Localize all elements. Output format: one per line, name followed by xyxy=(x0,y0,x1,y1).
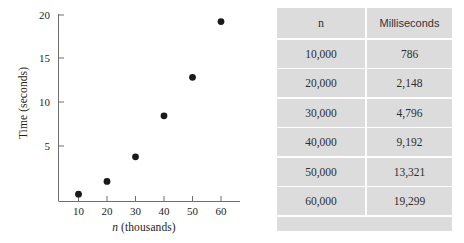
cell-n: 10,000 xyxy=(277,40,365,68)
timing-data-table: n Milliseconds 10,000 786 20,000 2,148 3… xyxy=(277,8,452,205)
cell-n: 50,000 xyxy=(277,158,365,186)
data-point xyxy=(104,178,111,185)
data-point xyxy=(161,112,168,119)
cell-n: 60,000 xyxy=(277,187,365,215)
column-header-n: n xyxy=(277,8,365,38)
scatter-plot-figure: 20 15 10 5 10 20 30 40 50 60 Time (secon… xyxy=(0,0,266,243)
cell-milliseconds: 4,796 xyxy=(367,99,452,127)
y-tick-label-20: 20 xyxy=(24,9,50,21)
table-row: 50,000 13,321 xyxy=(277,158,452,186)
x-tick-label-50: 50 xyxy=(181,205,205,217)
table-row: 30,000 4,796 xyxy=(277,99,452,127)
table-row: 40,000 9,192 xyxy=(277,128,452,156)
y-axis-title: Time (seconds) xyxy=(17,33,29,173)
data-point xyxy=(189,74,196,81)
figure-and-table-container: 20 15 10 5 10 20 30 40 50 60 Time (secon… xyxy=(0,0,464,243)
cell-milliseconds: 9,192 xyxy=(367,128,452,156)
x-tick-label-20: 20 xyxy=(95,205,119,217)
data-point xyxy=(132,153,139,160)
cell-milliseconds: 786 xyxy=(367,40,452,68)
x-tick-label-40: 40 xyxy=(152,205,176,217)
x-tick-label-30: 30 xyxy=(124,205,148,217)
data-point xyxy=(75,191,82,198)
x-tick-label-60: 60 xyxy=(209,205,233,217)
cell-milliseconds: 13,321 xyxy=(367,158,452,186)
x-tick-label-10: 10 xyxy=(67,205,91,217)
cell-n: 40,000 xyxy=(277,128,365,156)
cell-n: 20,000 xyxy=(277,69,365,97)
column-header-milliseconds: Milliseconds xyxy=(367,8,452,38)
table-row: 10,000 786 xyxy=(277,40,452,68)
table-header-row: n Milliseconds xyxy=(277,8,452,38)
cell-n: 30,000 xyxy=(277,99,365,127)
cell-milliseconds: 19,299 xyxy=(367,187,452,215)
table-row: 20,000 2,148 xyxy=(277,69,452,97)
cell-milliseconds: 2,148 xyxy=(367,69,452,97)
table-row: 60,000 19,299 xyxy=(277,187,452,215)
table-bottom-edge xyxy=(277,217,452,231)
data-point-group xyxy=(75,18,224,197)
data-point xyxy=(218,18,225,25)
x-axis-title: n (thousands) xyxy=(56,221,232,233)
